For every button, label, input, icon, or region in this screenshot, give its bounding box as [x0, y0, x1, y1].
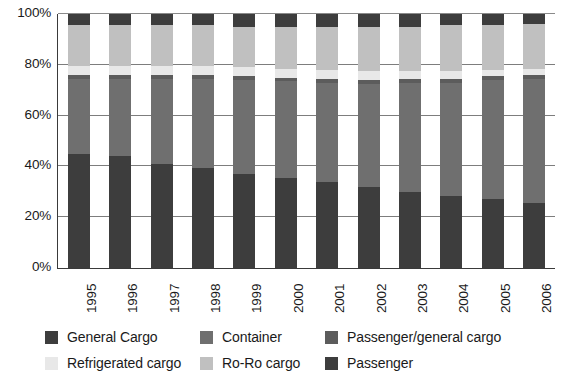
stacked-bar	[399, 14, 421, 268]
x-tick-label: 1996	[125, 284, 140, 313]
stacked-bar	[316, 14, 338, 268]
bar-segment	[316, 79, 338, 83]
bar-segment	[68, 14, 90, 25]
bar-segment	[275, 14, 297, 27]
bar-segment	[68, 154, 90, 268]
bar-segment	[68, 66, 90, 75]
bar-segment	[316, 14, 338, 27]
plot-area	[57, 14, 555, 269]
legend-label: Refrigerated cargo	[67, 356, 181, 370]
bar-segment	[275, 27, 297, 69]
bar-segment	[358, 71, 380, 80]
stacked-bar	[192, 14, 214, 268]
gridline-100%	[58, 13, 555, 14]
bar-segment	[233, 27, 255, 68]
bar-segment	[482, 25, 504, 69]
bar-group	[399, 14, 421, 268]
x-tick-label: 2004	[456, 284, 471, 313]
x-tick-label: 1997	[167, 284, 182, 313]
bar-group	[109, 14, 131, 268]
x-tick-label: 2005	[498, 284, 513, 313]
x-tick-label: 2002	[374, 284, 389, 313]
bar-segment	[68, 25, 90, 66]
bar-segment	[399, 14, 421, 27]
bar-segment	[523, 75, 545, 79]
bar-segment	[233, 76, 255, 80]
y-tick-label: 40%	[0, 157, 56, 172]
legend-item: Container	[200, 330, 282, 344]
bar-group	[275, 14, 297, 268]
bar-group	[523, 14, 545, 268]
gridline-20%	[58, 216, 555, 217]
bar-segment	[151, 66, 173, 75]
bar-segment	[482, 80, 504, 199]
stacked-bar	[358, 14, 380, 268]
gridline-80%	[58, 64, 555, 65]
bar-segment	[440, 14, 462, 25]
bar-segment	[151, 75, 173, 79]
bar-segment	[482, 70, 504, 76]
bar-segment	[482, 14, 504, 25]
bar-segment	[316, 27, 338, 70]
bar-segment	[68, 75, 90, 79]
y-tick-label: 20%	[0, 208, 56, 223]
legend-swatch-icon	[325, 331, 338, 344]
legend-swatch-icon	[45, 331, 58, 344]
bar-segment	[275, 178, 297, 268]
bar-group	[233, 14, 255, 268]
x-tick-label: 2000	[291, 284, 306, 313]
bar-segment	[192, 14, 214, 25]
bar-group	[482, 14, 504, 268]
bar-segment	[358, 14, 380, 27]
legend-swatch-icon	[325, 357, 338, 370]
bar-segment	[316, 70, 338, 79]
y-tick-label: 60%	[0, 107, 56, 122]
bar-segment	[192, 79, 214, 168]
stacked-bar	[523, 14, 545, 268]
legend-item: General Cargo	[45, 330, 158, 344]
bar-segment	[151, 14, 173, 25]
bar-segment	[233, 67, 255, 76]
bar-group	[316, 14, 338, 268]
bar-segment	[109, 156, 131, 268]
legend-label: Ro-Ro cargo	[222, 356, 300, 370]
legend-item: Passenger/general cargo	[325, 330, 501, 344]
bar-segment	[440, 83, 462, 196]
bar-segment	[316, 182, 338, 268]
bar-segment	[399, 83, 421, 192]
bar-segment	[151, 164, 173, 268]
bar-segment	[275, 69, 297, 78]
bar-segment	[109, 75, 131, 79]
bar-segment	[192, 66, 214, 75]
chart-legend: General CargoContainerPassenger/general …	[0, 322, 569, 379]
y-tick-label: 0%	[0, 259, 56, 274]
bar-segment	[151, 25, 173, 66]
legend-swatch-icon	[200, 331, 213, 344]
bar-group	[358, 14, 380, 268]
x-tick-label: 2006	[539, 284, 554, 313]
bar-segment	[358, 80, 380, 84]
bar-segment	[482, 199, 504, 268]
legend-item: Refrigerated cargo	[45, 356, 181, 370]
bar-segment	[523, 14, 545, 24]
bar-group	[68, 14, 90, 268]
bar-segment	[192, 25, 214, 66]
stacked-bar	[68, 14, 90, 268]
legend-item: Ro-Ro cargo	[200, 356, 300, 370]
bar-segment	[399, 71, 421, 79]
bar-segment	[399, 27, 421, 71]
bar-segment	[440, 71, 462, 79]
x-tick-label: 1998	[208, 284, 223, 313]
bar-segment	[523, 203, 545, 268]
legend-label: General Cargo	[67, 330, 158, 344]
bar-segment	[482, 76, 504, 80]
bar-segment	[358, 27, 380, 71]
bar-segment	[440, 79, 462, 83]
gridline-60%	[58, 115, 555, 116]
stacked-bar	[482, 14, 504, 268]
legend-label: Passenger/general cargo	[347, 330, 501, 344]
bar-group	[440, 14, 462, 268]
bar-segment	[109, 25, 131, 66]
bar-segment	[399, 79, 421, 83]
stacked-bar	[151, 14, 173, 268]
